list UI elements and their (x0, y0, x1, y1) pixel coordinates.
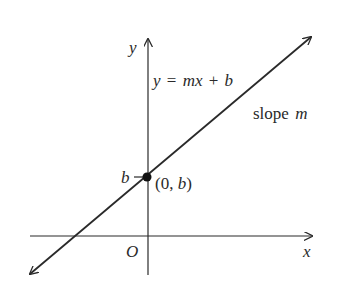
x-axis-label: x (302, 242, 311, 261)
origin-label: O (126, 242, 138, 261)
intercept-point-label: (0, b) (155, 174, 192, 193)
slope-intercept-diagram: y x O y = mx + b slope m b (0, b) (0, 0, 345, 298)
y-intercept-point (143, 173, 152, 182)
y-axis-label: y (127, 38, 137, 57)
equation-label: y = mx + b (151, 71, 233, 90)
b-tick-label: b (121, 168, 130, 187)
slope-label: slope m (253, 104, 307, 123)
